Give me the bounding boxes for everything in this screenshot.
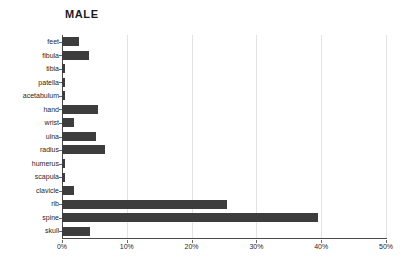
bar-fibula — [62, 51, 89, 60]
x-axis-label-0%: 0% — [57, 243, 67, 250]
y-axis-label-hand: hand — [0, 103, 59, 117]
gridline-50% — [386, 35, 387, 238]
y-axis-label-spine: spine — [0, 211, 59, 225]
y-axis-label-ulna: ulna — [0, 130, 59, 144]
x-axis-label-50%: 50% — [379, 243, 393, 250]
bar-row — [62, 49, 386, 63]
x-axis-label-20%: 20% — [185, 243, 199, 250]
bar-acetabulum — [62, 91, 65, 100]
bar-row — [62, 211, 386, 225]
bar-row — [62, 103, 386, 117]
y-axis-label-feet: feet — [0, 35, 59, 49]
bar-ulna — [62, 132, 96, 141]
bar-row — [62, 143, 386, 157]
bar-skull — [62, 227, 90, 236]
bar-row — [62, 62, 386, 76]
y-axis-label-humerus: humerus — [0, 157, 59, 171]
bar-patella — [62, 78, 65, 87]
bar-row — [62, 130, 386, 144]
bar-radius — [62, 145, 105, 154]
y-axis-label-scapula: scapula — [0, 170, 59, 184]
x-axis-label-40%: 40% — [314, 243, 328, 250]
y-axis-label-acetabulum: acetabulum — [0, 89, 59, 103]
bar-clavicle — [62, 186, 74, 195]
bar-rib — [62, 200, 227, 209]
bar-spine — [62, 213, 318, 222]
bar-chart: MALE feetfibulatibiapatellaacetabulumhan… — [0, 0, 411, 280]
x-axis-line — [62, 238, 387, 239]
bar-row — [62, 170, 386, 184]
x-axis-label-30%: 30% — [249, 243, 263, 250]
y-axis-label-fibula: fibula — [0, 49, 59, 63]
y-axis-label-clavicle: clavicle — [0, 184, 59, 198]
plot-area — [62, 35, 386, 238]
bar-scapula — [62, 173, 65, 182]
bars-layer — [62, 35, 386, 238]
chart-title: MALE — [65, 7, 99, 21]
bar-row — [62, 224, 386, 238]
y-axis-label-skull: skull — [0, 224, 59, 238]
bar-row — [62, 35, 386, 49]
y-axis-category-labels: feetfibulatibiapatellaacetabulumhandwris… — [0, 35, 59, 238]
bar-row — [62, 157, 386, 171]
y-axis-label-patella: patella — [0, 76, 59, 90]
y-axis-label-rib: rib — [0, 197, 59, 211]
bar-row — [62, 89, 386, 103]
x-axis-tick-labels: 0%10%20%30%40%50% — [0, 240, 411, 256]
bar-feet — [62, 37, 79, 46]
bar-tibia — [62, 64, 65, 73]
bar-row — [62, 76, 386, 90]
bar-row — [62, 197, 386, 211]
bar-row — [62, 116, 386, 130]
y-axis-label-wrist: wrist — [0, 116, 59, 130]
bar-row — [62, 184, 386, 198]
bar-humerus — [62, 159, 65, 168]
x-axis-label-10%: 10% — [120, 243, 134, 250]
bar-wrist — [62, 118, 74, 127]
bar-hand — [62, 105, 98, 114]
y-axis-label-tibia: tibia — [0, 62, 59, 76]
y-axis-label-radius: radius — [0, 143, 59, 157]
